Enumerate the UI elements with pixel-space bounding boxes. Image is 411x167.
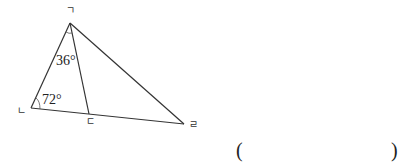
vertex-label-rieul: ㄹ xyxy=(189,120,198,130)
answer-close-paren: ) xyxy=(391,140,398,160)
segment-nieun-rieul xyxy=(31,108,184,124)
vertex-label-digeut: ㄷ xyxy=(86,117,95,127)
segment-giyeok-rieul xyxy=(70,23,184,124)
angle-label-36: 36° xyxy=(56,54,76,68)
vertex-label-giyeok: ㄱ xyxy=(66,6,75,16)
vertex-label-nieun: ㄴ xyxy=(17,106,26,116)
angle-arc-top xyxy=(66,32,72,33)
angle-label-72: 72° xyxy=(42,93,62,107)
answer-open-paren: ( xyxy=(236,140,243,160)
answer-blank[interactable] xyxy=(250,140,388,160)
angle-arc-left xyxy=(36,98,40,109)
